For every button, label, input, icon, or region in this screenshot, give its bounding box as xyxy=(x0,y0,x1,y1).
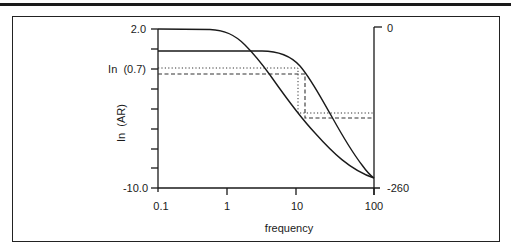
x-tick-label-1: 1 xyxy=(224,200,230,212)
y-axis-title: In (AR) xyxy=(115,104,127,142)
x-tick-label-10: 10 xyxy=(291,200,303,212)
bode-chart: 2.0 In (0.7) -10.0 In (AR) 0.1 1 10 100 … xyxy=(0,0,511,252)
x-axis xyxy=(158,188,380,195)
y-tick-label-bottom: -10.0 xyxy=(123,182,148,194)
dotted-reference-line xyxy=(158,68,374,113)
dashed-reference-line xyxy=(158,74,374,118)
right-tick-label-bottom: -260 xyxy=(387,182,409,194)
y-tick-label-ln07: In (0.7) xyxy=(108,63,146,75)
x-axis-title: frequency xyxy=(265,222,314,234)
x-tick-label-0-1: 0.1 xyxy=(153,200,168,212)
x-tick-label-100: 100 xyxy=(365,200,383,212)
left-y-axis xyxy=(151,29,158,192)
right-y-axis xyxy=(374,27,382,195)
y-tick-label-top: 2.0 xyxy=(131,23,146,35)
right-tick-label-top: 0 xyxy=(387,22,393,34)
